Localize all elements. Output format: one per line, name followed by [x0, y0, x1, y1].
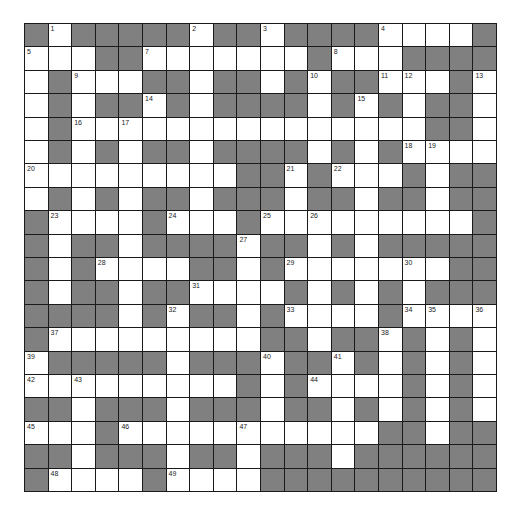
grid-cell[interactable] — [190, 188, 213, 210]
grid-cell[interactable] — [473, 352, 496, 374]
grid-cell[interactable]: 10 — [308, 71, 331, 93]
grid-cell[interactable] — [72, 422, 95, 444]
grid-cell[interactable]: 35 — [426, 305, 449, 327]
grid-cell[interactable]: 15 — [355, 94, 378, 116]
grid-cell[interactable]: 32 — [167, 305, 190, 327]
grid-cell[interactable]: 38 — [379, 328, 402, 350]
grid-cell[interactable] — [426, 211, 449, 233]
grid-cell[interactable] — [167, 398, 190, 420]
grid-cell[interactable]: 47 — [237, 422, 260, 444]
grid-cell[interactable] — [25, 94, 48, 116]
grid-cell[interactable] — [450, 141, 473, 163]
grid-cell[interactable] — [332, 445, 355, 467]
grid-cell[interactable] — [355, 281, 378, 303]
grid-cell[interactable] — [190, 375, 213, 397]
grid-cell[interactable] — [96, 469, 119, 491]
grid-cell[interactable]: 3 — [261, 24, 284, 46]
grid-cell[interactable] — [214, 211, 237, 233]
grid-cell[interactable] — [261, 375, 284, 397]
grid-cell[interactable]: 43 — [72, 375, 95, 397]
grid-cell[interactable] — [285, 422, 308, 444]
grid-cell[interactable] — [119, 188, 142, 210]
grid-cell[interactable] — [25, 141, 48, 163]
grid-cell[interactable] — [403, 118, 426, 140]
grid-cell[interactable]: 46 — [119, 422, 142, 444]
grid-cell[interactable] — [167, 352, 190, 374]
grid-cell[interactable] — [285, 211, 308, 233]
grid-cell[interactable]: 25 — [261, 211, 284, 233]
grid-cell[interactable] — [190, 47, 213, 69]
grid-cell[interactable] — [308, 328, 331, 350]
grid-cell[interactable] — [355, 422, 378, 444]
grid-cell[interactable] — [214, 328, 237, 350]
grid-cell[interactable]: 17 — [119, 118, 142, 140]
grid-cell[interactable] — [214, 469, 237, 491]
grid-cell[interactable]: 33 — [285, 305, 308, 327]
grid-cell[interactable] — [379, 258, 402, 280]
grid-cell[interactable]: 20 — [25, 164, 48, 186]
grid-cell[interactable] — [119, 211, 142, 233]
grid-cell[interactable]: 1 — [49, 24, 72, 46]
grid-cell[interactable] — [379, 398, 402, 420]
grid-cell[interactable] — [72, 211, 95, 233]
grid-cell[interactable] — [72, 47, 95, 69]
grid-cell[interactable] — [237, 47, 260, 69]
grid-cell[interactable] — [426, 375, 449, 397]
grid-cell[interactable] — [473, 118, 496, 140]
grid-cell[interactable] — [450, 305, 473, 327]
grid-cell[interactable]: 4 — [379, 24, 402, 46]
grid-cell[interactable] — [355, 375, 378, 397]
grid-cell[interactable] — [473, 141, 496, 163]
grid-cell[interactable]: 5 — [25, 47, 48, 69]
grid-cell[interactable] — [332, 398, 355, 420]
grid-cell[interactable] — [308, 118, 331, 140]
grid-cell[interactable] — [214, 164, 237, 186]
grid-cell[interactable] — [332, 211, 355, 233]
grid-cell[interactable] — [332, 375, 355, 397]
grid-cell[interactable] — [285, 47, 308, 69]
grid-cell[interactable]: 26 — [308, 211, 331, 233]
grid-cell[interactable] — [190, 469, 213, 491]
grid-cell[interactable] — [403, 211, 426, 233]
grid-cell[interactable] — [49, 422, 72, 444]
grid-cell[interactable]: 16 — [72, 118, 95, 140]
grid-cell[interactable] — [355, 164, 378, 186]
grid-cell[interactable] — [167, 47, 190, 69]
grid-cell[interactable] — [308, 281, 331, 303]
grid-cell[interactable] — [403, 281, 426, 303]
grid-cell[interactable] — [237, 118, 260, 140]
grid-cell[interactable] — [167, 422, 190, 444]
grid-cell[interactable] — [261, 118, 284, 140]
grid-cell[interactable]: 22 — [332, 164, 355, 186]
grid-cell[interactable]: 41 — [332, 352, 355, 374]
grid-cell[interactable] — [473, 328, 496, 350]
grid-cell[interactable] — [190, 141, 213, 163]
grid-cell[interactable] — [308, 422, 331, 444]
grid-cell[interactable] — [426, 328, 449, 350]
grid-cell[interactable]: 14 — [143, 94, 166, 116]
grid-cell[interactable] — [473, 398, 496, 420]
grid-cell[interactable] — [261, 281, 284, 303]
grid-cell[interactable] — [214, 422, 237, 444]
grid-cell[interactable]: 23 — [49, 211, 72, 233]
grid-cell[interactable] — [237, 258, 260, 280]
grid-cell[interactable] — [308, 141, 331, 163]
grid-cell[interactable] — [119, 469, 142, 491]
grid-cell[interactable] — [285, 118, 308, 140]
grid-cell[interactable] — [426, 24, 449, 46]
grid-cell[interactable] — [49, 375, 72, 397]
grid-cell[interactable]: 45 — [25, 422, 48, 444]
grid-cell[interactable] — [355, 141, 378, 163]
grid-cell[interactable] — [72, 445, 95, 467]
grid-cell[interactable] — [237, 469, 260, 491]
grid-cell[interactable]: 9 — [72, 71, 95, 93]
grid-cell[interactable] — [119, 235, 142, 257]
grid-cell[interactable]: 42 — [25, 375, 48, 397]
grid-cell[interactable] — [49, 281, 72, 303]
grid-cell[interactable] — [332, 118, 355, 140]
grid-cell[interactable] — [379, 211, 402, 233]
grid-cell[interactable] — [355, 118, 378, 140]
grid-cell[interactable] — [214, 281, 237, 303]
grid-cell[interactable] — [167, 118, 190, 140]
grid-cell[interactable] — [355, 235, 378, 257]
